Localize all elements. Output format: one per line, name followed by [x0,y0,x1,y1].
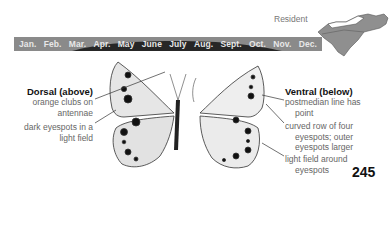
dorsal-butterfly [110,62,186,167]
ventral-butterfly [193,66,264,168]
ventral-note-eyespot-row: curved row of four eyespots; outer eyesp… [285,121,385,153]
dorsal-note-antennae: orange clubs on antennae [3,97,93,118]
dorsal-heading: Dorsal (above) [27,86,93,97]
dorsal-note-eyespots: dark eyespots in a light field [0,122,93,143]
page-number: 245 [352,164,375,180]
ventral-heading: Ventral (below) [285,86,353,97]
ventral-note-postmedian: postmedian line has point [285,97,385,118]
